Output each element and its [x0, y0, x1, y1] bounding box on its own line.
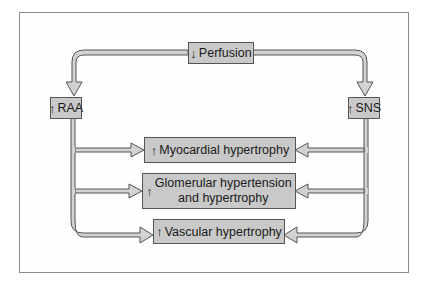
- node-label: Perfusion: [199, 46, 252, 60]
- arrow-raa-to-myocardial: [75, 143, 144, 157]
- up-arrow-icon: ↑: [49, 102, 56, 115]
- node-label: Myocardial hypertrophy: [159, 143, 289, 157]
- node-perfusion: ↓ Perfusion: [188, 42, 254, 64]
- up-arrow-icon: ↑: [156, 225, 163, 238]
- arrow-sns-to-myocardial: [295, 143, 364, 157]
- arrow-sns-trunk: [284, 118, 368, 243]
- node-label: RAA: [57, 101, 83, 115]
- arrow-raa-trunk: [71, 118, 153, 243]
- arrow-sns-to-glomerular: [295, 184, 364, 198]
- up-arrow-icon: ↑: [347, 102, 354, 115]
- node-label-line2: and hypertrophy: [155, 191, 292, 206]
- node-vascular-hypertrophy: ↑ Vascular hypertrophy: [153, 219, 285, 244]
- node-label: Vascular hypertrophy: [165, 225, 282, 239]
- arrow-perfusion-to-raa: [66, 50, 188, 96]
- arrow-perfusion-to-sns: [253, 50, 373, 96]
- node-raa: ↑ RAA: [50, 97, 82, 119]
- arrow-raa-to-glomerular: [75, 184, 142, 198]
- node-sns: ↑ SNS: [348, 97, 380, 119]
- up-arrow-icon: ↑: [146, 185, 153, 198]
- up-arrow-icon: ↑: [151, 144, 158, 157]
- down-arrow-icon: ↓: [190, 47, 197, 60]
- node-myocardial-hypertrophy: ↑ Myocardial hypertrophy: [144, 137, 296, 163]
- node-glomerular-hypertension: ↑ Glomerular hypertension and hypertroph…: [142, 173, 296, 209]
- node-label-line1: Glomerular hypertension: [155, 176, 292, 191]
- node-label: SNS: [355, 101, 381, 115]
